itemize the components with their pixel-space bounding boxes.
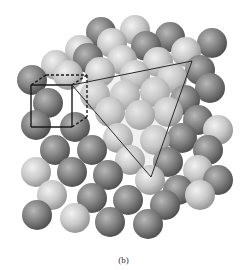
sphere (60, 203, 90, 233)
sphere (57, 157, 87, 187)
sphere (185, 180, 215, 210)
crystal-lattice-figure (0, 0, 247, 270)
sphere (22, 200, 52, 230)
sphere (95, 207, 125, 237)
figure-caption: (b) (0, 255, 247, 265)
sphere (197, 28, 227, 58)
sphere (21, 110, 51, 140)
sphere (133, 209, 163, 239)
